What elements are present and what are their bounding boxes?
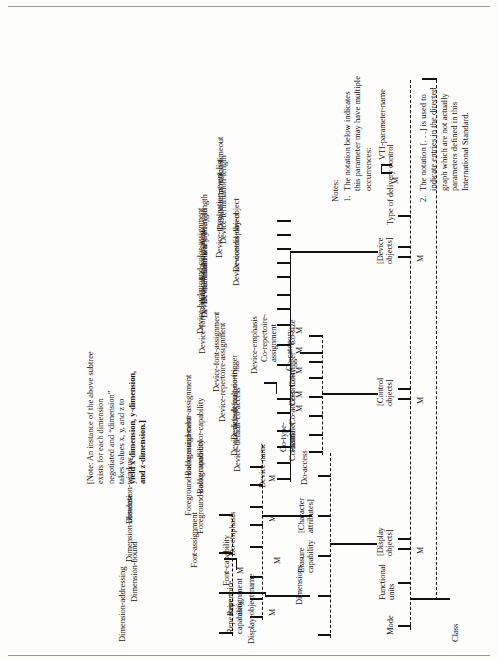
dev-stem-termination-event-list xyxy=(277,248,291,250)
note-1-example-label: VTI-parameter-name xyxy=(378,89,388,160)
note-1-example-stem-b xyxy=(381,164,392,166)
dev-stem-font-assignment xyxy=(264,382,277,384)
marker-m-font-assignment: M xyxy=(237,567,245,574)
dev-label-device-termination-timeout: Device-termination-timeout xyxy=(216,137,226,230)
ca-stem-fg-assignment xyxy=(250,506,263,508)
rotated-figure-canvas: Class Mode Functional units M [Display o… xyxy=(0,0,498,660)
dev-stem-default-co-priority xyxy=(277,446,291,448)
co-stem-size xyxy=(309,335,323,337)
marker-m-device-font-assignment: M xyxy=(296,391,304,398)
dev-label-device-emphasis: Device-emphasis xyxy=(250,316,260,374)
figure-page: Class Mode Functional units M [Display o… xyxy=(0,0,498,660)
note-1-example-stem-a xyxy=(381,172,392,174)
marker-m-device-emphasis-group: M xyxy=(296,367,304,374)
co-stem-access xyxy=(309,415,323,417)
branch-label-control-objects: [Control objects] xyxy=(376,378,394,406)
dev-stem-default-co-access xyxy=(277,462,291,464)
do-label-display-object-name: Display-object-name xyxy=(247,574,257,644)
dev-stem-control-object xyxy=(277,276,291,278)
do-label-do-access: Do-access xyxy=(300,451,310,485)
dev-label-device-font-assignment: Device-font-assignment xyxy=(212,312,222,392)
marker-m-control-objects: M xyxy=(417,397,425,404)
branch-label-device-objects: [Device objects] xyxy=(376,238,394,265)
root-label-class: Class xyxy=(451,624,461,642)
dev-stem-termination-length xyxy=(277,234,291,236)
dev-label-device-default-co-trigger: Device-default-co-trigger xyxy=(230,355,240,440)
ca-stem-repertoire-capability xyxy=(250,616,263,618)
dev-stem-min-y-array-length xyxy=(277,294,291,296)
branch-label-display-objects: [Display objects] xyxy=(376,527,394,556)
marker-m-fg-assignment: M xyxy=(269,515,277,522)
do-child-stem-name xyxy=(318,634,331,636)
ca-stem-fg-capability xyxy=(250,524,263,526)
ca-label-do-emphasis: Do-emphasis xyxy=(228,512,238,556)
co-stem-type-identifier xyxy=(309,434,323,436)
branch-functional-units-stem xyxy=(398,582,411,584)
marker-m-display-objects: M xyxy=(417,547,425,554)
marker-m-repertoire-assignment: M xyxy=(269,609,277,616)
dev-stem-repertoire-assignment xyxy=(277,412,291,414)
do-child-stem-do-access xyxy=(318,475,331,477)
dev-join-font-assignment xyxy=(276,383,277,394)
dev-stem-min-x-array-length xyxy=(277,308,291,310)
branch-device-objects-stem-a xyxy=(398,256,411,258)
co-stem-trigger xyxy=(309,377,323,379)
note-1-text: The notation below indicates this parame… xyxy=(342,0,373,191)
ca-label-background-color-capability: Background-color-capability xyxy=(196,398,206,494)
ca-label-background-color-assignment: Background-color-assignment xyxy=(184,375,194,476)
notes-heading: Notes: xyxy=(330,180,340,202)
note-1-example-marker: M xyxy=(392,177,400,184)
do-child-stem-erasure xyxy=(318,555,331,557)
dev-label-device-minimum-y-array-length: Device-minimum-y-array-length xyxy=(200,194,210,304)
dev-stem-font-assignment-riser xyxy=(277,398,291,400)
branch-type-of-delivery-stem xyxy=(398,215,411,217)
dim-label-dimension-addressing: Dimension-addressing xyxy=(118,567,128,642)
dimensions-riser xyxy=(265,595,310,597)
ca-join-font-assignment xyxy=(236,559,237,570)
dimension-note-plain: [Note: An instance of the above subtree … xyxy=(86,324,128,484)
branch-device-objects-stem-b xyxy=(398,246,411,248)
do-label-erasure-capability: Erasure capability xyxy=(297,540,315,573)
marker-m-bg-assignment: M xyxy=(269,475,277,482)
branch-label-functional-units: Functional units xyxy=(378,564,396,600)
marker-m-device-repertoire-assignment: M xyxy=(296,405,304,412)
co-stem-name xyxy=(309,451,323,453)
note-1-number: 1. xyxy=(342,196,352,202)
dev-stem-default-co-trigger xyxy=(277,430,291,432)
display-objects-bus xyxy=(330,453,331,638)
dev-stem-display-object xyxy=(277,262,291,264)
dev-stem-bg-assignment xyxy=(277,324,291,326)
co-label-co-repertoire-assignment: Co-repertoire- assignment xyxy=(260,314,278,362)
branch-control-objects-stem-a xyxy=(398,398,411,400)
co-stem-priority xyxy=(309,396,323,398)
dev-stem-name xyxy=(277,478,291,480)
marker-m-dimensions: M xyxy=(274,557,282,564)
note-1-example-join xyxy=(381,165,382,174)
class-bus-drop xyxy=(410,598,436,600)
ca-stem-repertoire-assignment xyxy=(250,598,263,600)
page-rule-left xyxy=(8,655,490,656)
co-stem-category xyxy=(309,361,323,363)
dev-stem-emphasis xyxy=(277,364,291,366)
note-2-number: 2. xyxy=(418,196,428,202)
dev-label-device-display-object: Device-display-object xyxy=(232,198,242,272)
marker-m-device-fg-assignment: M xyxy=(296,347,304,354)
dev-stem-fg-assignment xyxy=(277,344,291,346)
branch-display-objects-stem-a xyxy=(398,548,411,550)
branch-display-objects-stem-b xyxy=(398,538,411,540)
branch-mode-stem xyxy=(398,625,411,627)
control-objects-riser xyxy=(322,393,378,395)
note-2-text: The notation [. . .] is used to indicate… xyxy=(418,0,470,191)
dev-label-device-name: Device-name xyxy=(258,443,268,488)
dev-stem-termination-timeout xyxy=(277,220,291,222)
do-child-stem-dimensions xyxy=(318,595,331,597)
branch-control-objects-stem-b xyxy=(398,388,411,390)
marker-m-device-objects: M xyxy=(417,255,425,262)
marker-m-device-bg-assignment: M xyxy=(296,327,304,334)
branch-label-mode: Mode xyxy=(386,615,396,635)
display-objects-riser xyxy=(330,543,377,545)
ca-stem-do-emphasis xyxy=(250,546,263,548)
ca-stem-font-capability xyxy=(250,576,263,578)
do-child-stem-char-attrs xyxy=(318,515,331,517)
dimension-note-bold: yield x-dimension, y-dimension, and z-di… xyxy=(128,324,149,484)
